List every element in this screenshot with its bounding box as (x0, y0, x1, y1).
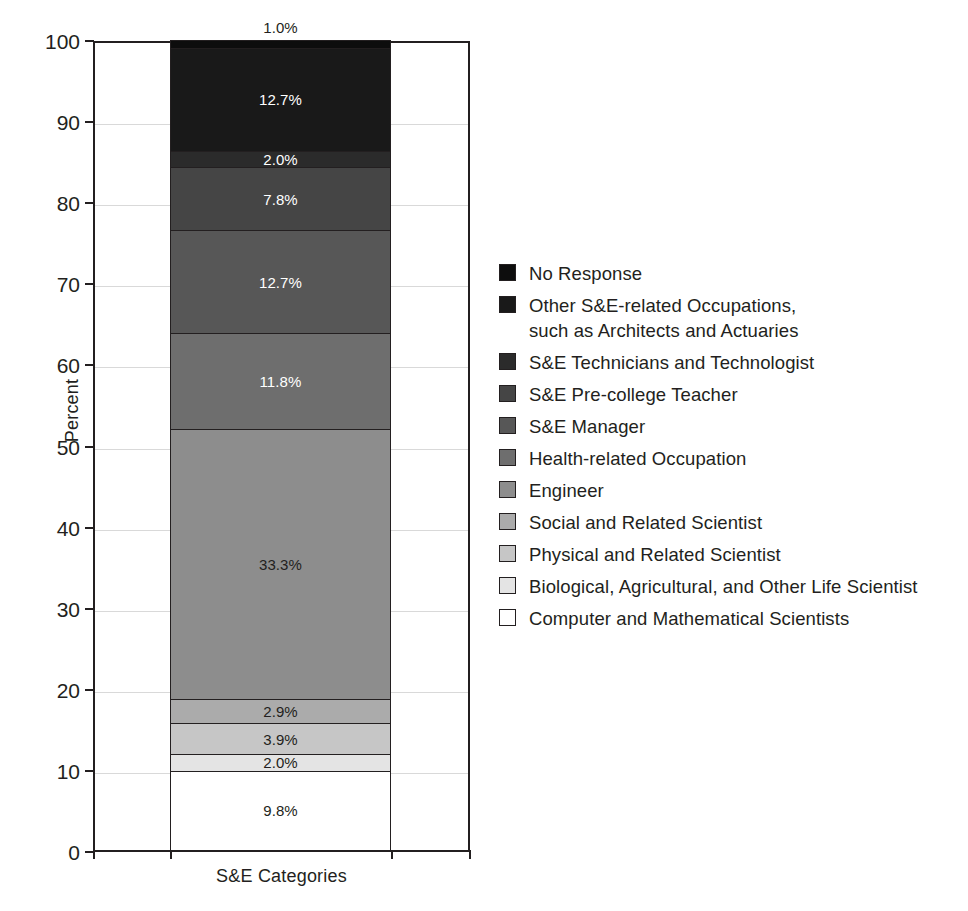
segment-value-label: 9.8% (263, 803, 298, 818)
segment-value-label: 3.9% (263, 732, 298, 747)
y-tick-label: 80 (18, 193, 80, 214)
bar-segment[interactable]: 7.8% (170, 167, 391, 230)
segment-value-label: 12.7% (259, 275, 302, 290)
bar-segment[interactable]: 1.0% (170, 40, 391, 48)
legend-item[interactable]: Computer and Mathematical Scientists (499, 606, 959, 631)
legend-swatch-icon (499, 353, 516, 370)
chart-legend: No ResponseOther S&E-related Occupations… (499, 261, 959, 638)
legend-swatch-icon (499, 577, 516, 594)
legend-swatch-icon (499, 264, 516, 281)
legend-swatch-icon (499, 609, 516, 626)
legend-item-label: Biological, Agricultural, and Other Life… (529, 574, 918, 599)
bar-segment[interactable]: 12.7% (170, 48, 391, 151)
segment-value-label: 7.8% (263, 192, 298, 207)
segment-value-label: 2.0% (263, 152, 298, 167)
legend-swatch-icon (499, 449, 516, 466)
legend-swatch-icon (499, 545, 516, 562)
legend-swatch-icon (499, 513, 516, 530)
bar-segment[interactable]: 3.9% (170, 723, 391, 755)
segment-value-label: 12.7% (259, 92, 302, 107)
legend-item[interactable]: No Response (499, 261, 959, 286)
legend-item-label: Social and Related Scientist (529, 510, 762, 535)
legend-item-label: Health-related Occupation (529, 446, 746, 471)
x-tick-mark (170, 850, 172, 859)
bar-segment[interactable]: 2.0% (170, 754, 391, 770)
legend-item[interactable]: Physical and Related Scientist (499, 542, 959, 567)
legend-item[interactable]: Health-related Occupation (499, 446, 959, 471)
legend-item[interactable]: Other S&E-related Occupations, such as A… (499, 293, 959, 343)
x-tick-mark (469, 850, 471, 859)
legend-item[interactable]: Social and Related Scientist (499, 510, 959, 535)
legend-item-label: Physical and Related Scientist (529, 542, 781, 567)
legend-item-label: Engineer (529, 478, 604, 503)
bar-segment[interactable]: 33.3% (170, 429, 391, 699)
segment-value-label: 33.3% (259, 557, 302, 572)
legend-swatch-icon (499, 481, 516, 498)
y-tick-label: 90 (18, 112, 80, 133)
x-axis-label: S&E Categories (93, 866, 470, 887)
legend-item-label: S&E Pre-college Teacher (529, 382, 738, 407)
bar-segment[interactable]: 12.7% (170, 230, 391, 333)
legend-swatch-icon (499, 417, 516, 434)
bar-segment[interactable]: 11.8% (170, 333, 391, 429)
stacked-bar[interactable]: 9.8%2.0%3.9%2.9%33.3%11.8%12.7%7.8%2.0%1… (170, 43, 391, 850)
legend-item-label: Computer and Mathematical Scientists (529, 606, 849, 631)
legend-item[interactable]: Biological, Agricultural, and Other Life… (499, 574, 959, 599)
segment-value-label: 11.8% (260, 374, 302, 389)
legend-item-label: S&E Technicians and Technologist (529, 350, 814, 375)
stacked-bar-chart-figure: Percent 0102030405060708090100 9.8%2.0%3… (0, 0, 968, 911)
plot-area: 9.8%2.0%3.9%2.9%33.3%11.8%12.7%7.8%2.0%1… (93, 41, 470, 852)
y-tick-label: 60 (18, 355, 80, 376)
segment-value-label: 2.0% (263, 755, 298, 770)
y-tick-label: 30 (18, 598, 80, 619)
legend-item[interactable]: S&E Pre-college Teacher (499, 382, 959, 407)
x-tick-mark (93, 850, 95, 859)
legend-swatch-icon (499, 385, 516, 402)
legend-item-label: No Response (529, 261, 642, 286)
y-tick-label: 100 (18, 31, 80, 52)
segment-value-label: 2.9% (263, 704, 298, 719)
legend-swatch-icon (499, 296, 516, 313)
legend-item[interactable]: Engineer (499, 478, 959, 503)
y-tick-label: 0 (18, 842, 80, 863)
y-tick-label: 50 (18, 436, 80, 457)
bar-segment[interactable]: 9.8% (170, 771, 391, 850)
x-tick-mark (391, 850, 393, 859)
bar-segment[interactable]: 2.0% (170, 151, 391, 167)
y-tick-label: 10 (18, 760, 80, 781)
y-tick-label: 70 (18, 274, 80, 295)
y-tick-label: 20 (18, 679, 80, 700)
y-tick-label: 40 (18, 517, 80, 538)
bar-segment[interactable]: 2.9% (170, 699, 391, 723)
legend-item[interactable]: S&E Technicians and Technologist (499, 350, 959, 375)
legend-item-label: Other S&E-related Occupations, such as A… (529, 293, 799, 343)
segment-value-label: 1.0% (263, 20, 298, 35)
legend-item[interactable]: S&E Manager (499, 414, 959, 439)
legend-item-label: S&E Manager (529, 414, 645, 439)
